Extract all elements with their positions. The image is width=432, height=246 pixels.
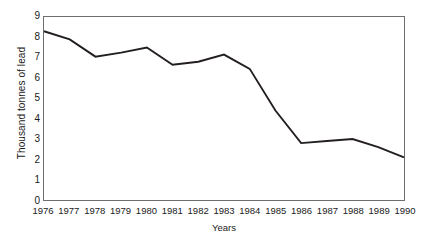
data-line-svg bbox=[44, 17, 404, 200]
x-tick-label: 1990 bbox=[385, 205, 425, 217]
x-axis-tick-labels: 1976197719781979198019811982198319841985… bbox=[43, 205, 405, 219]
y-tick-label: 8 bbox=[26, 32, 40, 42]
y-tick-label: 1 bbox=[26, 175, 40, 185]
y-tick-label: 6 bbox=[26, 73, 40, 83]
data-series-line bbox=[44, 31, 404, 157]
x-axis-title: Years bbox=[43, 222, 405, 234]
y-tick-label: 3 bbox=[26, 134, 40, 144]
y-tick-label: 9 bbox=[26, 11, 40, 21]
line-chart-figure: Thousand tonnes of lead 0123456789 19761… bbox=[0, 0, 432, 246]
y-tick-label: 2 bbox=[26, 155, 40, 165]
y-tick-label: 4 bbox=[26, 114, 40, 124]
y-tick-label: 7 bbox=[26, 52, 40, 62]
y-tick-label: 5 bbox=[26, 93, 40, 103]
plot-area bbox=[43, 16, 405, 201]
